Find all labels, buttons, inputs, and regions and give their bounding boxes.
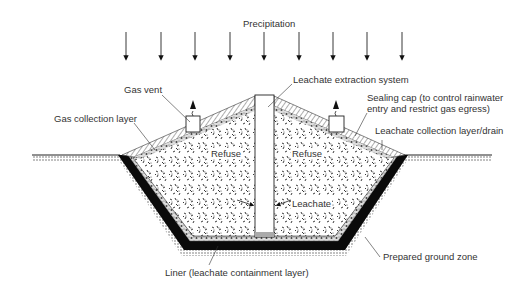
gas-vent-left bbox=[186, 100, 200, 132]
leachate-extraction-pipe bbox=[255, 95, 274, 237]
sealing-cap-label-line2: entry and restrict gas egress) bbox=[367, 103, 490, 114]
leachate-extraction-system-label: Leachate extraction system bbox=[293, 74, 409, 85]
prepared-ground-zone-label: Prepared ground zone bbox=[383, 251, 478, 262]
leachate-collection-layer-label: Leachate collection layer/drain bbox=[375, 125, 503, 136]
leachate-label: Leachate bbox=[291, 198, 332, 209]
sealing-cap-label-line1: Sealing cap (to control rainwater bbox=[367, 92, 503, 103]
gas-collection-layer-label: Gas collection layer bbox=[54, 113, 137, 124]
gas-vent-right bbox=[329, 100, 344, 132]
refuse-left-label: Refuse bbox=[210, 148, 242, 159]
precipitation-arrows bbox=[126, 32, 402, 58]
refuse-right-label: Refuse bbox=[291, 148, 323, 159]
precipitation-label: Precipitation bbox=[243, 18, 295, 29]
liner-label: Liner (leachate containment layer) bbox=[165, 267, 309, 278]
landfill-diagram bbox=[0, 0, 519, 294]
gas-vent-label: Gas vent bbox=[124, 84, 162, 95]
